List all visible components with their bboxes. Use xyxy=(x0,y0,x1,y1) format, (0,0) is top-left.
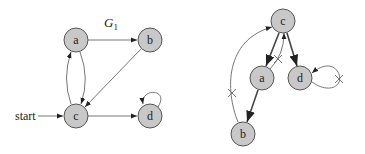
node-c: c xyxy=(64,104,88,128)
edge-b-to-c xyxy=(85,49,141,107)
node-d: d xyxy=(288,66,312,90)
svg-text:c: c xyxy=(280,14,285,28)
tree-edge-c-to-a xyxy=(266,33,279,66)
node-a: a xyxy=(64,28,88,52)
node-a: a xyxy=(250,66,274,90)
cross-mark-icon xyxy=(274,55,282,63)
tree-edge-a-to-b xyxy=(247,90,258,122)
node-b: b xyxy=(138,28,162,52)
svg-text:a: a xyxy=(259,71,265,85)
edge-c-to-a xyxy=(67,52,72,104)
svg-text:d: d xyxy=(297,71,303,85)
svg-text:a: a xyxy=(73,33,79,47)
cross-mark-icon xyxy=(228,89,236,97)
node-d: d xyxy=(138,104,162,128)
svg-text:d: d xyxy=(147,109,153,123)
node-c: c xyxy=(271,9,295,33)
graph-g1: G1 start a b c d xyxy=(15,15,162,128)
svg-text:b: b xyxy=(240,127,246,141)
svg-text:b: b xyxy=(147,33,153,47)
start-label: start xyxy=(15,109,36,123)
tree-edge-c-to-d xyxy=(287,33,297,66)
graph-dfs-tree: c a d b xyxy=(228,9,343,146)
back-edge-d-self-loop xyxy=(312,66,340,88)
diagram-canvas: G1 start a b c d xyxy=(0,0,365,154)
svg-text:c: c xyxy=(73,109,78,123)
edge-a-to-c xyxy=(80,52,85,104)
node-b: b xyxy=(231,122,255,146)
graph-title: G1 xyxy=(104,15,118,32)
